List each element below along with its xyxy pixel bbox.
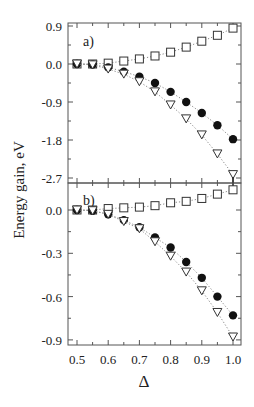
circle-marker bbox=[151, 79, 159, 87]
panel-label: a) bbox=[83, 34, 94, 50]
circle-marker bbox=[182, 258, 190, 266]
y-tick-label: 0.9 bbox=[46, 19, 62, 34]
triangle-marker bbox=[182, 268, 191, 276]
square-marker bbox=[151, 52, 159, 60]
series-line bbox=[77, 210, 233, 315]
triangle-marker bbox=[166, 101, 175, 109]
circle-marker bbox=[166, 243, 174, 251]
plot-frame bbox=[68, 23, 241, 183]
series-line bbox=[77, 64, 233, 139]
series-line bbox=[77, 210, 233, 337]
x-tick-label: 0.7 bbox=[131, 352, 148, 367]
x-tick-label: 1.0 bbox=[225, 352, 241, 367]
x-axis: 0.50.60.70.80.91.0 bbox=[69, 352, 241, 367]
circle-marker bbox=[198, 109, 206, 117]
square-marker bbox=[182, 43, 190, 51]
y-tick-label: 0.0 bbox=[46, 57, 62, 72]
circle-marker bbox=[213, 292, 221, 300]
triangle-marker bbox=[197, 287, 206, 295]
panel-b: 0.0-0.3-0.6-0.9b) bbox=[41, 183, 241, 348]
triangle-marker bbox=[182, 115, 191, 123]
square-marker bbox=[167, 48, 175, 56]
square-marker bbox=[213, 31, 221, 39]
square-marker bbox=[229, 186, 237, 194]
circle-marker bbox=[213, 121, 221, 129]
x-tick-label: 0.5 bbox=[69, 352, 85, 367]
triangle-marker bbox=[213, 150, 222, 158]
y-axis-label: Energy gain, eV bbox=[11, 130, 31, 250]
square-marker bbox=[120, 57, 128, 65]
y-tick-label: 0.0 bbox=[46, 203, 62, 218]
square-marker bbox=[135, 55, 143, 63]
energy-gain-chart: 0.90.0-0.9-1.8-2.7a) 0.0-0.3-0.6-0.9b) 0… bbox=[0, 0, 254, 407]
x-axis-label: Δ bbox=[139, 372, 150, 392]
y-tick-label: -0.9 bbox=[41, 333, 62, 348]
square-marker bbox=[213, 190, 221, 198]
circle-marker bbox=[166, 88, 174, 96]
triangle-marker bbox=[151, 88, 160, 96]
circle-marker bbox=[198, 274, 206, 282]
circle-marker bbox=[229, 135, 237, 143]
square-marker bbox=[198, 194, 206, 202]
square-marker bbox=[135, 203, 143, 211]
x-tick-label: 0.8 bbox=[162, 352, 178, 367]
circle-marker bbox=[229, 311, 237, 319]
circle-marker bbox=[182, 98, 190, 106]
triangle-marker bbox=[166, 252, 175, 260]
triangle-marker bbox=[213, 308, 222, 316]
square-marker bbox=[198, 37, 206, 45]
square-marker bbox=[120, 204, 128, 212]
y-tick-label: -0.9 bbox=[41, 95, 62, 110]
y-tick-label: -0.6 bbox=[41, 290, 62, 305]
x-tick-label: 0.9 bbox=[194, 352, 210, 367]
y-tick-label: -0.3 bbox=[41, 246, 62, 261]
panel-a: 0.90.0-0.9-1.8-2.7a) bbox=[41, 19, 241, 190]
triangle-marker bbox=[135, 78, 144, 86]
y-tick-label: -1.8 bbox=[41, 133, 62, 148]
square-marker bbox=[182, 197, 190, 205]
square-marker bbox=[151, 202, 159, 210]
y-tick-label: -2.7 bbox=[41, 171, 62, 186]
x-tick-label: 0.6 bbox=[100, 352, 117, 367]
triangle-marker bbox=[197, 131, 206, 139]
square-marker bbox=[229, 24, 237, 32]
square-marker bbox=[167, 199, 175, 207]
